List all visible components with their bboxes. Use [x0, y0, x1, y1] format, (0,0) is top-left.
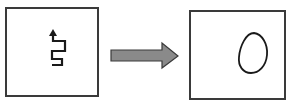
closed-loop-icon: [239, 33, 267, 73]
right-arrow-icon: [111, 43, 178, 68]
squiggle-arrow-icon: [49, 29, 65, 65]
diagram-canvas: [0, 0, 289, 104]
